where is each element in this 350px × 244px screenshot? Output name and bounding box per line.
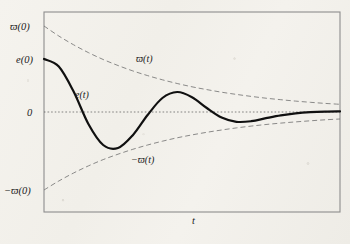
plot-svg [0, 0, 350, 244]
lower-envelope-curve [44, 119, 340, 190]
figure-canvas: ϖ(0) e(0) 0 −ϖ(0) ϖ(t) e(t) −ϖ(t) t [0, 0, 350, 244]
upper-envelope-curve [44, 26, 340, 104]
error-signal-curve [44, 59, 340, 149]
